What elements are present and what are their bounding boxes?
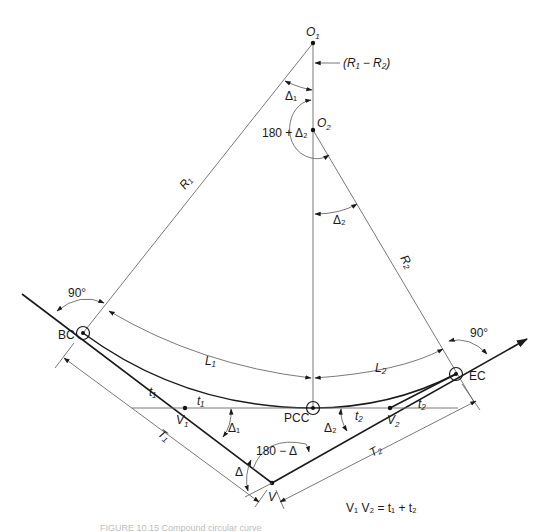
angle-180-plus-delta2-label: 180 + Δ₂ — [262, 126, 308, 140]
right-angle-bc-label: 90° — [68, 286, 86, 300]
l2-label: L₂ — [375, 361, 387, 375]
r1-label: R₁ — [176, 173, 195, 192]
t1-line-label: t₁ — [197, 394, 204, 408]
pcc-label: PCC — [284, 411, 310, 425]
delta2-v2-arc — [341, 409, 347, 431]
t2-dimension-label: T₂ — [367, 441, 384, 459]
t1-extension-v — [255, 490, 267, 507]
bc-label: BC — [58, 328, 75, 342]
t2-extension-ec — [462, 384, 480, 410]
equation-label: V₁ V₂ = t₁ + t₂ — [346, 501, 417, 515]
t2-tangent-label: t₂ — [418, 397, 426, 411]
t2-extension-v — [276, 490, 284, 509]
r1-radius-line — [83, 43, 313, 333]
o1-point — [311, 41, 315, 45]
compound-curve — [83, 333, 456, 408]
forward-tangent-line — [272, 339, 527, 483]
delta2-v2-label: Δ₂ — [324, 421, 337, 435]
bc-marker — [77, 327, 90, 340]
delta-v-label: Δ — [235, 465, 243, 479]
delta1-v1-label: Δ₁ — [228, 421, 240, 435]
l1-label: L₁ — [205, 354, 216, 368]
v-label: V — [268, 490, 277, 504]
back-tangent-line — [22, 294, 272, 483]
delta1-top-label: Δ₁ — [285, 89, 297, 103]
v1-label: V1 — [176, 413, 188, 429]
figure-caption: FIGURE 10.15 Compound circular curve — [100, 523, 262, 532]
o2-point — [311, 128, 315, 132]
angle-180-minus-delta-label: 180 − Δ — [256, 444, 297, 458]
right-angle-ec-arc — [449, 340, 487, 354]
delta2-mid-label: Δ₂ — [333, 213, 346, 227]
ec-label: EC — [469, 369, 486, 383]
right-angle-ec-label: 90° — [470, 326, 488, 340]
t1-tangent-label: t₁ — [149, 385, 156, 399]
o1-label: O1 — [306, 25, 320, 41]
v1-point — [183, 406, 187, 410]
v2-label: V2 — [387, 413, 400, 429]
t2-line-label: t₂ — [355, 409, 363, 423]
r2-label: R₂ — [397, 253, 416, 272]
right-angle-bc-arc — [57, 299, 104, 311]
compound-curve-diagram: O1 O2 (R₁ − R₂) Δ₁ 180 + Δ₂ Δ₂ R₁ R₂ BC … — [0, 0, 550, 532]
t1-extension-bc — [55, 343, 74, 368]
r2-radius-line — [313, 130, 474, 402]
r1-minus-r2-label: (R₁ − R₂) — [343, 56, 390, 70]
v2-point — [388, 406, 392, 410]
t1-dimension-label: T₁ — [155, 426, 172, 444]
o2-label: O2 — [317, 116, 331, 132]
